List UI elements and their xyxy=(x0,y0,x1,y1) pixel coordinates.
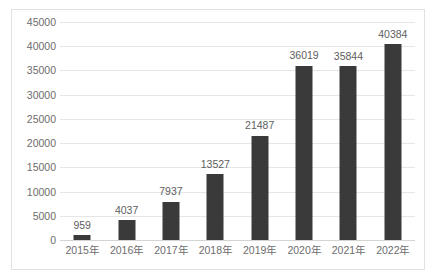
y-axis-tick-label: 30000 xyxy=(14,89,56,100)
bar-value-label: 959 xyxy=(73,220,91,231)
x-axis-tick-label: 2015年 xyxy=(66,245,99,256)
y-axis-tick-label: 15000 xyxy=(14,162,56,173)
y-axis-tick-label: 40000 xyxy=(14,41,56,52)
y-axis-tick-label: 25000 xyxy=(14,114,56,125)
bar-value-label: 13527 xyxy=(201,159,230,170)
x-axis-tick-label: 2018年 xyxy=(199,245,232,256)
bar-value-label: 40384 xyxy=(378,29,407,40)
y-axis: 0500010000150002000025000300003500040000… xyxy=(14,22,56,240)
x-axis-tick-label: 2016年 xyxy=(110,245,143,256)
x-axis-tick-label: 2019年 xyxy=(243,245,276,256)
x-axis-tick-label: 2021年 xyxy=(332,245,365,256)
bar-slot: 13527 xyxy=(193,22,237,240)
bar-value-label: 4037 xyxy=(115,205,138,216)
bar-value-label: 35844 xyxy=(334,51,363,62)
bar[interactable] xyxy=(74,235,91,240)
bar-slot: 35844 xyxy=(326,22,370,240)
y-axis-tick-label: 35000 xyxy=(14,65,56,76)
bar-slot: 21487 xyxy=(238,22,282,240)
bar[interactable] xyxy=(207,174,224,240)
chart-container: 0500010000150002000025000300003500040000… xyxy=(0,0,436,279)
x-axis-tick-label: 2022年 xyxy=(376,245,409,256)
bar-slot: 7937 xyxy=(149,22,193,240)
bar-slot: 4037 xyxy=(104,22,148,240)
y-axis-tick-label: 10000 xyxy=(14,186,56,197)
bar-series: 959403779371352721487360193584440384 xyxy=(60,22,415,240)
bar-value-label: 36019 xyxy=(289,50,318,61)
axis-baseline xyxy=(60,240,415,241)
bar[interactable] xyxy=(118,220,135,240)
bar-slot: 36019 xyxy=(282,22,326,240)
bar-slot: 959 xyxy=(60,22,104,240)
bar-value-label: 7937 xyxy=(159,186,182,197)
bar-slot: 40384 xyxy=(371,22,415,240)
x-axis-tick-label: 2017年 xyxy=(154,245,187,256)
y-axis-tick-label: 5000 xyxy=(14,211,56,222)
bar-value-label: 21487 xyxy=(245,120,274,131)
bar[interactable] xyxy=(162,202,179,240)
bar[interactable] xyxy=(251,136,268,240)
plot-area: 959403779371352721487360193584440384 xyxy=(60,22,415,240)
y-axis-tick-label: 0 xyxy=(14,235,56,246)
bar[interactable] xyxy=(340,66,357,240)
x-axis-tick-label: 2020年 xyxy=(287,245,320,256)
y-axis-tick-label: 20000 xyxy=(14,138,56,149)
bar[interactable] xyxy=(296,66,313,240)
bar[interactable] xyxy=(384,44,401,240)
y-axis-tick-label: 45000 xyxy=(14,17,56,28)
x-axis: 2015年2016年2017年2018年2019年2020年2021年2022年 xyxy=(60,245,415,261)
